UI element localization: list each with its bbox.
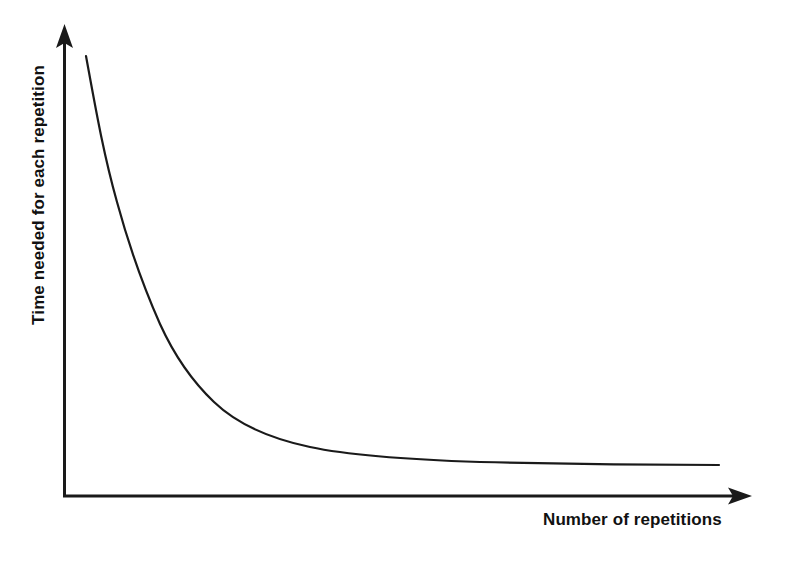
x-axis-label: Number of repetitions: [543, 509, 722, 531]
chart-figure: Time needed for each repetition Number o…: [0, 0, 791, 561]
learning-curve-line: [86, 56, 719, 465]
chart-plot-area: [0, 0, 791, 561]
y-axis-label: Time needed for each repetition: [26, 40, 52, 350]
